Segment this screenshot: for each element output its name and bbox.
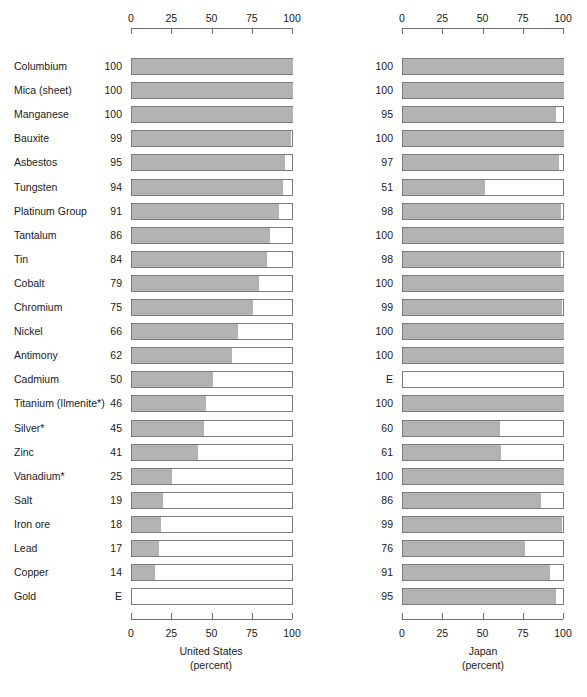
value-label: 100 — [353, 58, 393, 75]
us-bottom-axis-label-100: 100 — [283, 627, 301, 640]
bar-track — [131, 420, 293, 437]
jp-top-axis-tick-100 — [563, 28, 564, 34]
us-top-axis-label-100: 100 — [283, 12, 301, 25]
bar-track — [131, 82, 293, 99]
bar-track — [402, 251, 564, 268]
jp-bottom-axis-tick-0 — [402, 613, 403, 619]
bar-track — [402, 275, 564, 292]
bar-row: 100 — [340, 130, 587, 147]
bar-fill — [403, 396, 564, 411]
us-top-axis-label-75: 75 — [246, 12, 258, 25]
value-label: 50 — [82, 371, 122, 388]
bar-track — [402, 516, 564, 533]
bar-track — [131, 564, 293, 581]
category-label: Mica (sheet) — [14, 82, 72, 99]
bar-fill — [403, 589, 556, 604]
value-label: 100 — [353, 468, 393, 485]
us-bottom-axis-tick-50 — [212, 613, 213, 619]
value-label: 19 — [82, 492, 122, 509]
value-label: 100 — [353, 275, 393, 292]
bar-fill — [132, 348, 232, 363]
value-label: 94 — [82, 179, 122, 196]
bar-fill — [403, 131, 564, 146]
bar-fill — [403, 421, 500, 436]
value-label: 84 — [82, 251, 122, 268]
bar-row: Bauxite99 — [0, 130, 340, 147]
value-label: 95 — [82, 154, 122, 171]
bar-row: Salt19 — [0, 492, 340, 509]
bar-track — [402, 347, 564, 364]
bar-row: Iron ore18 — [0, 516, 340, 533]
bar-track — [402, 540, 564, 557]
value-label: 100 — [82, 106, 122, 123]
value-label: 14 — [82, 564, 122, 581]
bar-fill — [132, 204, 279, 219]
bar-fill — [403, 59, 564, 74]
value-label: 61 — [353, 444, 393, 461]
bar-track — [402, 564, 564, 581]
bar-fill — [403, 252, 561, 267]
us-bottom-axis-line — [131, 619, 292, 620]
us-bottom-axis-tick-25 — [171, 613, 172, 619]
bar-row: 98 — [340, 251, 587, 268]
bar-fill — [403, 300, 562, 315]
bar-row: 100 — [340, 323, 587, 340]
category-label: Silver* — [14, 420, 44, 437]
jp-axis-units: (percent) — [403, 659, 563, 672]
jp-top-axis-label-100: 100 — [554, 12, 572, 25]
bar-fill — [132, 421, 204, 436]
bar-track — [131, 468, 293, 485]
bar-fill — [132, 131, 291, 146]
us-top-axis-tick-0 — [131, 28, 132, 34]
bar-row: Asbestos95 — [0, 154, 340, 171]
us-bottom-axis-tick-75 — [252, 613, 253, 619]
value-label: 99 — [82, 130, 122, 147]
value-label: 98 — [353, 203, 393, 220]
bar-track — [402, 395, 564, 412]
bar-row: 91 — [340, 564, 587, 581]
category-label: Gold — [14, 588, 36, 605]
value-label: 75 — [82, 299, 122, 316]
bar-fill — [403, 155, 559, 170]
bar-track — [131, 516, 293, 533]
value-label: 17 — [82, 540, 122, 557]
category-label: Tantalum — [14, 227, 57, 244]
value-label: 51 — [353, 179, 393, 196]
bar-row: 60 — [340, 420, 587, 437]
bar-track — [402, 323, 564, 340]
bar-row: Cobalt79 — [0, 275, 340, 292]
us-bottom-axis-label-25: 25 — [165, 627, 177, 640]
category-label: Lead — [14, 540, 37, 557]
jp-bottom-axis-label-50: 50 — [477, 627, 489, 640]
bar-row: Zinc41 — [0, 444, 340, 461]
value-label: 100 — [353, 227, 393, 244]
bar-fill — [132, 396, 206, 411]
category-label: Bauxite — [14, 130, 49, 147]
us-top-axis-label-25: 25 — [165, 12, 177, 25]
bar-track — [131, 299, 293, 316]
category-label: Platinum Group — [14, 203, 87, 220]
bar-row: 100 — [340, 227, 587, 244]
value-label: E — [353, 371, 393, 388]
bar-track — [131, 106, 293, 123]
bar-fill — [132, 300, 253, 315]
category-label: Tin — [14, 251, 28, 268]
category-label: Nickel — [14, 323, 43, 340]
value-label: 86 — [353, 492, 393, 509]
jp-top-axis-tick-50 — [483, 28, 484, 34]
bar-track — [131, 203, 293, 220]
bar-track — [131, 444, 293, 461]
bar-track — [402, 420, 564, 437]
bar-row: Tungsten94 — [0, 179, 340, 196]
bar-fill — [132, 469, 172, 484]
value-label: 76 — [353, 540, 393, 557]
bar-track — [402, 130, 564, 147]
jp-bottom-axis-tick-50 — [483, 613, 484, 619]
bar-row: Lead17 — [0, 540, 340, 557]
value-label: 45 — [82, 420, 122, 437]
bar-row: Mica (sheet)100 — [0, 82, 340, 99]
bar-row: Vanadium*25 — [0, 468, 340, 485]
bar-row: Tantalum86 — [0, 227, 340, 244]
value-label: E — [82, 588, 122, 605]
bar-fill — [132, 228, 270, 243]
